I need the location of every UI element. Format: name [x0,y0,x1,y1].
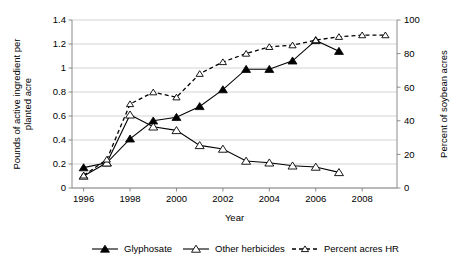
data-point-marker-hollow [196,71,203,77]
chart-container: 00.20.40.60.811.21.4 020406080100 199619… [0,0,460,266]
x-tick-label: 1998 [119,193,140,204]
chart-legend: GlyphosateOther herbicidesPercent acres … [92,243,399,254]
data-point-marker-filled [172,113,181,120]
axis-lines [72,20,397,188]
x-tick-label: 1996 [73,193,94,204]
y-tick-label: 1 [61,62,66,73]
y2-tick-label: 0 [404,182,409,193]
y-axis-title: Pounds of active ingredient per [11,39,22,170]
y-tick-label: 0.8 [53,86,66,97]
y-tick-label: 0.2 [53,158,66,169]
data-point-marker-hollow [126,101,133,107]
y-tick-label: 0.6 [53,110,66,121]
gridlines [72,20,397,188]
x-tick-label: 2006 [305,193,326,204]
series-path [84,40,339,167]
y-tick-label: 0.4 [53,134,66,145]
x-axis-tick-labels: 1996199820002002200420062008 [73,188,373,204]
y2-tick-label: 20 [404,149,415,160]
x-tick-label: 2004 [259,193,280,204]
x-tick-label: 2000 [166,193,187,204]
x-tick-label: 2008 [352,193,373,204]
legend-label-3: Percent acres HR [324,243,399,254]
y-axis-tick-labels: 00.20.40.60.811.21.4 [53,14,72,193]
data-point-marker-hollow [195,142,204,149]
y-tick-label: 0 [61,182,66,193]
x-axis-title: Year [225,212,244,223]
data-point-marker-filled [335,47,344,54]
series-other-herbicides [79,111,343,179]
y-tick-label: 1.2 [53,38,66,49]
y2-tick-label: 40 [404,115,415,126]
y-axis-title-line2: planted acre [22,78,33,130]
y2-tick-label: 60 [404,82,415,93]
y-tick-label: 1.4 [53,14,66,25]
series-layer [79,32,389,179]
data-point-marker-hollow [242,157,251,164]
y2-tick-label: 80 [404,48,415,59]
y2-tick-label: 100 [404,14,420,25]
line-chart: 00.20.40.60.811.21.4 020406080100 199619… [0,0,460,266]
y2-axis-tick-labels: 020406080100 [397,14,420,193]
x-tick-label: 2002 [212,193,233,204]
legend-label-2: Other herbicides [215,243,285,254]
series-glyphosate [79,37,343,171]
legend-label-1: Glyphosate [124,243,172,254]
y2-axis-title: Percent of soybean acres [438,50,449,158]
